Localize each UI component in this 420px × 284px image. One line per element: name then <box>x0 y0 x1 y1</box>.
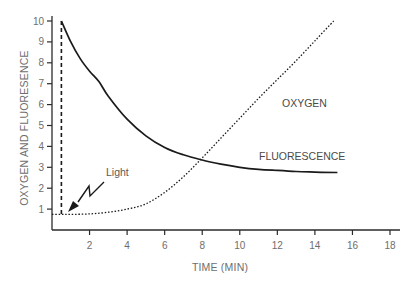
oxygen-fluorescence-chart: 12345678910 24681012141618 TIME (MIN) OX… <box>0 0 420 284</box>
light-annotation-label: Light <box>106 166 129 178</box>
fluorescence-label: FLUORESCENCE <box>259 150 345 162</box>
y-tick-label: 10 <box>33 16 45 27</box>
x-tick-label: 4 <box>124 240 130 251</box>
oxygen-curve <box>52 21 334 214</box>
axes <box>52 16 400 230</box>
x-tick-label: 2 <box>87 240 93 251</box>
y-tick-label: 6 <box>38 99 44 110</box>
x-tick-label: 16 <box>347 240 359 251</box>
x-tick-label: 14 <box>309 240 321 251</box>
x-tick-label: 12 <box>272 240 284 251</box>
y-tick-label: 5 <box>38 120 44 131</box>
x-ticks: 24681012141618 <box>87 230 396 251</box>
y-tick-label: 8 <box>38 57 44 68</box>
x-axis-title: TIME (MIN) <box>192 261 248 273</box>
oxygen-label: OXYGEN <box>282 97 327 109</box>
y-axis-title: OXYGEN AND FLUORESENCE <box>18 50 30 206</box>
x-tick-label: 18 <box>384 240 396 251</box>
y-tick-label: 9 <box>38 36 44 47</box>
zigzag-arrow-icon <box>68 182 104 212</box>
x-tick-label: 10 <box>234 240 246 251</box>
y-tick-label: 3 <box>38 162 44 173</box>
x-tick-label: 8 <box>199 240 205 251</box>
y-tick-label: 4 <box>38 141 44 152</box>
y-tick-label: 7 <box>38 78 44 89</box>
y-tick-label: 1 <box>38 204 44 215</box>
y-ticks: 12345678910 <box>33 16 52 215</box>
y-tick-label: 2 <box>38 183 44 194</box>
x-tick-label: 6 <box>162 240 168 251</box>
